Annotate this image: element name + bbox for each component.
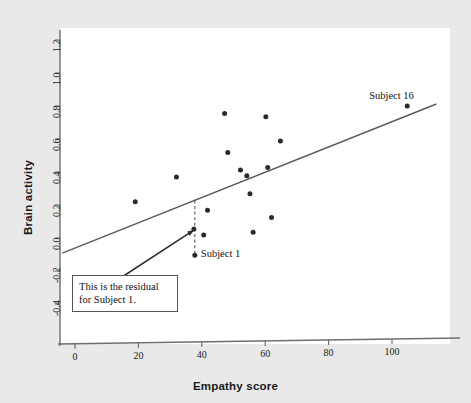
axes-svg <box>0 0 471 403</box>
y-tick-label: 1.0 <box>51 73 62 86</box>
y-tick-label: -0.4 <box>51 300 62 316</box>
x-tick-label: 20 <box>126 350 150 361</box>
x-tick-label: 40 <box>190 349 214 360</box>
y-tick-label: 0.6 <box>51 139 62 152</box>
y-tick-label: 0.8 <box>51 106 62 119</box>
callout-line-2: for Subject 1. <box>79 293 171 306</box>
residual-callout-box: This is the residual for Subject 1. <box>72 275 178 312</box>
y-axis-title: Brain activity <box>22 160 34 235</box>
y-tick-label: 1.2 <box>51 40 62 53</box>
data-point-label: Subject 16 <box>369 90 414 101</box>
x-tick-label: 60 <box>253 348 277 359</box>
x-tick-label: 80 <box>317 347 341 358</box>
y-tick-label: 0.4 <box>51 172 62 185</box>
y-tick-label: -0.2 <box>51 267 62 283</box>
x-axis-title: Empathy score <box>0 380 471 392</box>
x-tick-label: 0 <box>63 351 87 362</box>
y-tick-label: 0.0 <box>51 238 62 251</box>
data-point-label: Subject 1 <box>201 248 240 259</box>
callout-line-1: This is the residual <box>79 280 171 293</box>
y-tick-label: 0.2 <box>51 205 62 218</box>
figure-container: 020406080100 -0.4-0.20.00.20.40.60.81.01… <box>0 0 471 403</box>
x-axis-line <box>58 338 460 344</box>
x-tick-label: 100 <box>380 346 404 357</box>
